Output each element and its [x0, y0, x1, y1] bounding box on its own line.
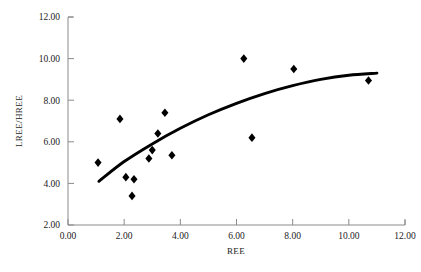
x-tick-label: 2.00 — [116, 231, 133, 241]
y-tick-label: 4.00 — [43, 179, 60, 189]
x-tick-label: 0.00 — [60, 231, 77, 241]
y-tick-label: 8.00 — [43, 96, 60, 106]
y-axis-title: LREE/HREE — [14, 95, 24, 147]
x-tick-label: 8.00 — [284, 231, 301, 241]
y-tick-label: 10.00 — [39, 54, 61, 64]
x-tick-label: 12.00 — [394, 231, 416, 241]
y-tick-label: 2.00 — [43, 220, 60, 230]
y-tick-label: 6.00 — [43, 137, 60, 147]
chart-figure: 2.004.006.008.0010.0012.00 0.002.004.006… — [0, 0, 421, 272]
scatter-plot-svg: 2.004.006.008.0010.0012.00 0.002.004.006… — [0, 0, 421, 272]
x-tick-label: 4.00 — [172, 231, 189, 241]
y-tick-label: 12.00 — [39, 12, 61, 22]
x-tick-label: 6.00 — [228, 231, 245, 241]
x-axis-title: REE — [227, 246, 245, 256]
x-tick-label: 10.00 — [338, 231, 360, 241]
